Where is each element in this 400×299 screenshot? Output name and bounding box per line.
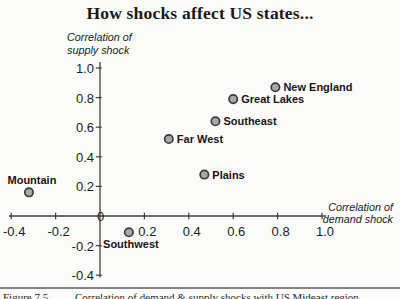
data-point-label-great-lakes: Great Lakes [241,93,304,105]
x-tick-label: -0.2 [47,224,69,239]
y-tick-label: 1.0 [76,61,94,76]
data-point-label-mountain: Mountain [8,174,57,186]
x-tick-label: 0.6 [227,224,245,239]
data-point-mountain [25,188,33,196]
data-point-great-lakes [229,95,237,103]
data-point-label-southwest: Southwest [103,238,159,250]
figure-scan-page: How shocks affect US states... Correlati… [0,0,400,299]
data-point-label-plains: Plains [212,169,244,181]
data-point-new-england [271,83,279,91]
figure-caption: Figure 7.5Correlation of demand & supply… [3,291,400,299]
x-tick-label: 0.2 [138,224,156,239]
y-tick-label: 0.2 [76,179,94,194]
x-tick-label: 0.4 [183,224,201,239]
figure-caption-text: Correlation of demand & supply shocks wi… [75,291,359,299]
x-tick-label: 0.8 [272,224,290,239]
origin-tick-label: 0 [97,209,104,224]
data-point-label-far-west: Far West [177,133,224,145]
y-tick-label: 0.8 [76,91,94,106]
x-tick-label: 1.0 [316,224,334,239]
data-point-plains [200,170,208,178]
figure-number-label: Figure 7.5 [3,291,75,299]
data-point-label-southeast: Southeast [223,115,277,127]
x-axis-title: Correlation of demand shock [323,202,393,225]
y-tick-label: -0.2 [72,239,94,254]
y-tick-label: 0.4 [76,150,94,165]
data-point-label-new-england: New England [283,81,352,93]
data-point-far-west [165,135,173,143]
scatter-plot: -0.4-0.20.20.40.60.81.0-0.4-0.20.20.40.6… [0,0,400,299]
y-tick-label: 0.6 [76,120,94,135]
x-tick-label: -0.4 [3,224,25,239]
data-point-southeast [211,117,219,125]
data-point-southwest [125,228,133,236]
caption-divider-line [0,287,400,289]
y-tick-label: -0.4 [72,268,94,283]
